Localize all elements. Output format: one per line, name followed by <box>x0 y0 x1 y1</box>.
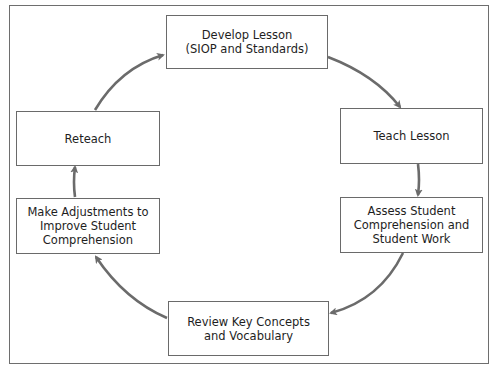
node-teach-lesson: Teach Lesson <box>340 108 483 164</box>
node-make-adjustments: Make Adjustments to Improve Student Comp… <box>16 198 160 254</box>
arrow-assess-to-review <box>331 253 403 313</box>
node-label: Develop Lesson (SIOP and Standards) <box>186 28 309 56</box>
node-develop-lesson: Develop Lesson (SIOP and Standards) <box>166 15 328 69</box>
arrow-reteach-to-develop <box>95 55 163 110</box>
node-assess-student: Assess Student Comprehension and Student… <box>340 197 483 253</box>
node-reteach: Reteach <box>16 111 160 166</box>
node-label: Review Key Concepts and Vocabulary <box>187 315 310 343</box>
node-label: Teach Lesson <box>373 129 449 143</box>
arrow-adjust-to-reteach <box>74 167 75 197</box>
node-label: Make Adjustments to Improve Student Comp… <box>27 205 148 247</box>
node-label: Reteach <box>65 132 112 146</box>
arrow-teach-to-assess <box>418 164 419 195</box>
node-review-key-concepts: Review Key Concepts and Vocabulary <box>168 301 329 356</box>
node-label: Assess Student Comprehension and Student… <box>354 204 470 246</box>
arrow-develop-to-teach <box>328 57 400 107</box>
arrow-review-to-adjust <box>96 257 167 318</box>
